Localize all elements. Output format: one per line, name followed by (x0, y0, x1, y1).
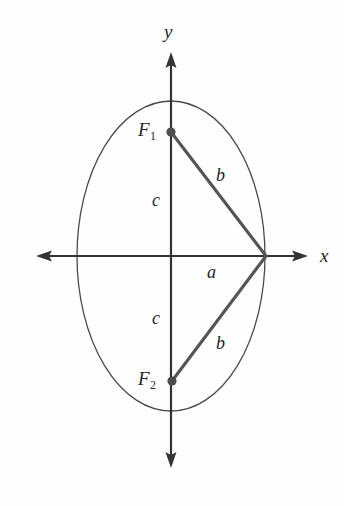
segment-label-b-lower: b (216, 334, 225, 352)
segment-label-a: a (207, 263, 216, 281)
focus-point-f1 (166, 127, 175, 136)
segment-label-c-upper: c (152, 191, 160, 209)
segment-label-c-lower: c (152, 309, 160, 327)
diagram-canvas (0, 0, 344, 506)
focus-label-f1-base: F (138, 119, 150, 140)
focus-label-f2-subscript: 2 (150, 378, 157, 392)
y-axis-label: y (164, 22, 172, 41)
segment-b-lower (172, 256, 266, 381)
focus-label-f1: F1 (138, 120, 156, 142)
focus-point-f2 (167, 376, 176, 385)
x-axis-label: x (320, 246, 328, 265)
focus-label-f2: F2 (138, 369, 156, 391)
ellipse-diagram-figure: y x F1 F2 b b c c a (0, 0, 344, 506)
segment-b-upper (171, 132, 266, 256)
focus-label-f1-subscript: 1 (150, 129, 157, 143)
segment-label-b-upper: b (216, 166, 225, 184)
focus-label-f2-base: F (138, 368, 150, 389)
